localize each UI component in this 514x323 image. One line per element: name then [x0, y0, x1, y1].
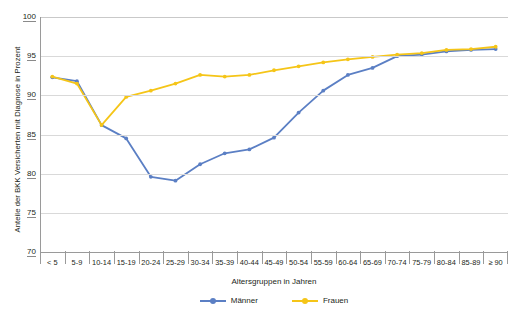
data-point — [198, 162, 202, 166]
y-tick-label: 90 — [27, 90, 36, 100]
data-point — [445, 48, 449, 52]
data-point — [297, 64, 301, 68]
y-gridline: 95 — [40, 56, 508, 57]
data-point — [247, 147, 251, 151]
y-tick-label: 100 — [23, 12, 36, 22]
x-axis-categories: < 55-910-1415-1920-2425-2930-3435-3940-4… — [40, 254, 508, 270]
legend-label: Frauen — [323, 296, 348, 305]
x-tick-label: 25-29 — [163, 254, 188, 270]
x-tick-label: < 5 — [40, 254, 65, 270]
y-tick-label: 75 — [27, 208, 36, 218]
data-point — [223, 151, 227, 155]
cropped-header-text — [70, 0, 240, 7]
data-point — [174, 82, 178, 86]
x-tick-label: 15-19 — [114, 254, 139, 270]
y-gridline: 100 — [40, 17, 508, 18]
x-tick-label: 35-39 — [212, 254, 237, 270]
data-point — [321, 89, 325, 93]
y-tick-label: 80 — [27, 169, 36, 179]
data-point — [420, 51, 424, 55]
data-point — [149, 89, 153, 93]
x-tick-label: 65-69 — [360, 254, 385, 270]
data-point — [124, 137, 128, 141]
data-point — [50, 75, 54, 79]
y-tick-label: 85 — [27, 130, 36, 140]
x-tick-label: 55-59 — [311, 254, 336, 270]
y-gridline: 90 — [40, 95, 508, 96]
data-point — [371, 66, 375, 70]
y-gridline: 85 — [40, 135, 508, 136]
x-tick-label: 45-49 — [262, 254, 287, 270]
y-axis-line — [40, 17, 41, 252]
data-point — [198, 73, 202, 77]
y-axis-title: Anteile der BKK Versicherten mit Diagnos… — [13, 15, 22, 265]
legend-item[interactable]: Frauen — [292, 296, 348, 305]
data-point — [272, 68, 276, 72]
data-point — [494, 45, 498, 49]
data-point — [469, 47, 473, 51]
chart-legend: MännerFrauen — [40, 296, 508, 305]
x-tick-label: 70-74 — [385, 254, 410, 270]
series-line-frauen — [52, 47, 495, 125]
x-tick-label: 75-79 — [409, 254, 434, 270]
legend-item[interactable]: Männer — [200, 296, 258, 305]
x-tick-label: 20-24 — [139, 254, 164, 270]
data-point — [100, 123, 104, 127]
data-point — [346, 57, 350, 61]
x-tick-label: 85-89 — [459, 254, 484, 270]
x-axis-title: Altersgruppen in Jahren — [40, 277, 508, 286]
x-tick-label: 30-34 — [188, 254, 213, 270]
data-point — [297, 111, 301, 115]
x-tick-label: 40-44 — [237, 254, 262, 270]
x-tick-label: ≥ 90 — [483, 254, 508, 270]
y-tick-label: 95 — [27, 51, 36, 61]
line-chart: Anteile der BKK Versicherten mit Diagnos… — [0, 0, 514, 323]
data-point — [272, 136, 276, 140]
y-gridline: 80 — [40, 174, 508, 175]
plot-area: 707580859095100 — [40, 17, 508, 252]
x-tick-label: 5-9 — [65, 254, 90, 270]
legend-swatch-icon — [200, 296, 226, 305]
data-point — [223, 75, 227, 79]
data-point — [149, 175, 153, 179]
x-axis-line — [40, 252, 508, 253]
x-tick-label: 10-14 — [89, 254, 114, 270]
data-point — [346, 73, 350, 77]
data-point — [174, 179, 178, 183]
y-gridline: 75 — [40, 213, 508, 214]
x-tick-label: 50-54 — [286, 254, 311, 270]
x-tick-label: 60-64 — [336, 254, 361, 270]
data-point — [321, 61, 325, 65]
data-point — [75, 82, 79, 86]
legend-swatch-icon — [292, 296, 318, 305]
y-tick-label: 70 — [27, 247, 36, 257]
data-point — [247, 73, 251, 77]
x-tick-label: 80-84 — [434, 254, 459, 270]
legend-label: Männer — [231, 296, 258, 305]
